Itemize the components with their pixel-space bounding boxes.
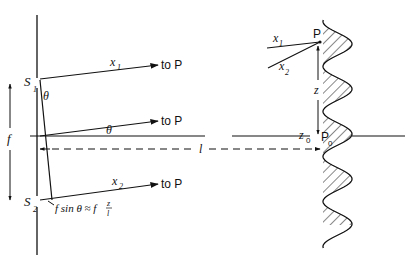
svg-text:S: S	[24, 74, 31, 89]
separation-arrow: f	[7, 84, 13, 200]
svg-text:to P: to P	[161, 177, 182, 191]
distance-label: l	[199, 142, 203, 156]
svg-text:f sin θ ≈ f: f sin θ ≈ f	[55, 202, 98, 214]
perpendicular-construction: θ	[40, 80, 52, 200]
svg-text:x: x	[272, 31, 279, 45]
ray-x2: x 2 to P	[40, 174, 182, 200]
svg-text:to P: to P	[161, 114, 182, 128]
angle-label-slit: θ	[43, 89, 49, 103]
svg-text:P: P	[313, 27, 321, 41]
svg-text:x: x	[109, 55, 116, 69]
svg-text:2: 2	[119, 182, 123, 191]
separation-label: f	[7, 131, 13, 146]
svg-text:1: 1	[33, 85, 37, 94]
svg-text:z: z	[298, 128, 304, 142]
svg-text:to P: to P	[161, 58, 182, 72]
ray-x1: x 1 to P	[40, 55, 182, 79]
svg-text:0: 0	[328, 139, 333, 148]
origin-labels: z 0 P 0	[298, 128, 333, 148]
svg-text:0: 0	[306, 136, 311, 145]
svg-text:x: x	[278, 59, 285, 73]
svg-text:z: z	[106, 199, 111, 208]
svg-text:x: x	[111, 174, 118, 188]
svg-text:2: 2	[33, 205, 37, 214]
svg-text:2: 2	[285, 68, 289, 77]
angle-label-axis: θ	[106, 123, 112, 137]
z-label: z	[313, 83, 319, 97]
interference-diagram: f S 1 S 2 θ x 1 to P to P θ x 2 to P f s…	[0, 0, 413, 265]
svg-text:1: 1	[279, 39, 283, 48]
distance-line: l	[52, 142, 320, 156]
slit-s1-label: S 1	[24, 74, 37, 94]
path-difference-label: f sin θ ≈ f z l	[48, 199, 112, 218]
svg-text:1: 1	[117, 63, 121, 72]
slit-s2-label: S 2	[24, 194, 37, 214]
point-p: P x 1 x 2	[267, 27, 322, 77]
svg-text:l: l	[107, 209, 110, 218]
svg-text:S: S	[24, 194, 31, 209]
z-displacement: z	[313, 46, 319, 134]
ray-center: to P θ	[40, 114, 182, 137]
